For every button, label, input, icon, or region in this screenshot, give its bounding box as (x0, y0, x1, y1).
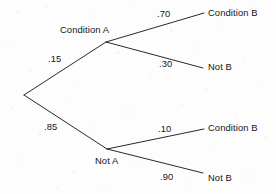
node-label-condition-a: Condition A (60, 25, 109, 35)
line-not-a-to-not-b (107, 149, 203, 173)
leaf-label-condition-b-upper: Condition B (208, 8, 258, 18)
line-not-a-to-condition-b (107, 129, 204, 149)
leaf-label-not-b-upper: Not B (208, 62, 232, 72)
line-root-to-condition-a (24, 42, 106, 95)
leaf-label-not-b-lower: Not B (208, 173, 232, 183)
node-label-not-a: Not A (95, 156, 118, 166)
probability-label-condition-a-not-b: .30 (159, 59, 172, 69)
line-root-to-not-a (24, 95, 107, 149)
probability-label-not-a-condition-b: .10 (158, 124, 171, 134)
probability-tree-diagram: .15 .85 Condition A Not A .70 .30 .10 .9… (0, 0, 276, 194)
probability-label-not-a-not-b: .90 (160, 172, 173, 182)
probability-label-condition-a: .15 (48, 54, 61, 64)
leaf-label-condition-b-lower: Condition B (208, 123, 258, 133)
tree-branch-lines (0, 0, 276, 194)
probability-label-not-a: .85 (44, 122, 57, 132)
line-condition-a-to-not-b (106, 42, 203, 68)
line-condition-a-to-condition-b (106, 13, 204, 42)
probability-label-condition-a-condition-b: .70 (157, 9, 170, 19)
